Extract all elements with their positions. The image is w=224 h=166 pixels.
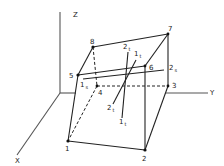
edge-3-2 (145, 86, 168, 150)
edge-7-6 (145, 34, 168, 66)
label-2s: 2s (169, 64, 177, 73)
vertex-7-label: 7 (168, 25, 172, 33)
vertex-1-dot (66, 139, 69, 142)
x-axis (17, 93, 60, 155)
vertex-7-dot (167, 33, 170, 36)
vertex-8-label: 8 (90, 38, 94, 46)
edge-8-4-hidden (93, 47, 97, 86)
x-axis-label: X (15, 157, 20, 165)
edge-8-7 (93, 34, 168, 47)
vertex-2-label: 2 (142, 155, 146, 163)
vertex-5-dot (76, 73, 79, 76)
diagram-svg: Z X Y 1 2 3 4 5 6 7 8 2 (0, 0, 224, 166)
label-2t-top: 2t (123, 43, 130, 52)
vertex-6-label: 6 (149, 64, 154, 72)
z-axis-label: Z (73, 11, 78, 19)
edge-8-5 (78, 47, 93, 75)
vertex-3-label: 3 (172, 82, 176, 90)
vertex-1-label: 1 (65, 145, 69, 153)
label-1s: 1s (80, 81, 88, 90)
vertex-6-dot (144, 65, 147, 68)
edge-1-2 (68, 141, 145, 150)
vertex-dots (66, 33, 169, 152)
label-1t-bottom: 1t (119, 118, 126, 127)
vertex-3-dot (167, 85, 170, 88)
hexahedron-diagram: Z X Y 1 2 3 4 5 6 7 8 2 (0, 0, 224, 166)
solid-edges (68, 34, 168, 150)
vertex-5-label: 5 (69, 72, 73, 80)
label-2t-bottom: 2t (107, 104, 114, 113)
vertex-4-dot (96, 85, 99, 88)
label-1t-top: 1t (134, 50, 141, 59)
y-axis-label: Y (209, 89, 215, 97)
vertex-4-label: 4 (98, 89, 103, 97)
segment-1t-2t (113, 60, 136, 104)
vertex-2-dot (143, 148, 146, 151)
